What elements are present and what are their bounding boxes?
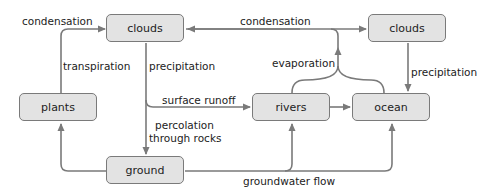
groundwater-ocean-arrow (285, 124, 392, 171)
label-precipitation-left: precipitation (149, 60, 215, 72)
node-plants: plants (19, 93, 97, 121)
node-clouds-left: clouds (106, 14, 184, 42)
node-clouds-right: clouds (368, 14, 446, 42)
label-precipitation-right: precipitation (411, 66, 477, 78)
label-surface-runoff: surface runoff (162, 94, 235, 106)
label-percolation: percolation (155, 119, 214, 131)
node-ocean: ocean (352, 93, 430, 121)
evaporation-arrow (292, 48, 338, 93)
node-rivers: rivers (252, 93, 330, 121)
label-evaporation: evaporation (272, 57, 335, 69)
label-groundwater-flow: groundwater flow (243, 175, 335, 187)
label-condensation-left: condensation (22, 15, 93, 27)
label-transpiration: transpiration (63, 60, 130, 72)
ground-plants-arrow (61, 124, 106, 171)
node-ground: ground (106, 156, 184, 184)
label-through-rocks: through rocks (149, 132, 221, 144)
label-condensation-top: condensation (240, 15, 311, 27)
